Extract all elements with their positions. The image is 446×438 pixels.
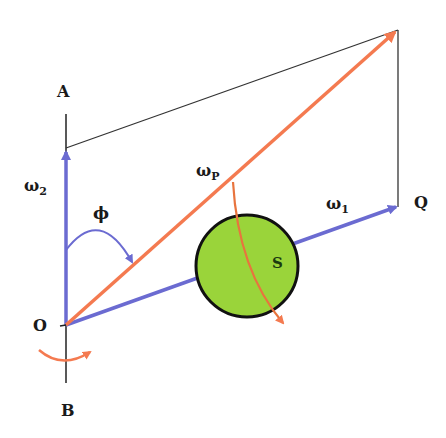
origin-tick: [60, 325, 66, 326]
omega-2-symbol: ω: [24, 176, 39, 195]
phi-angle-arc: [66, 230, 132, 262]
omega-1-symbol: ω: [326, 194, 341, 213]
axis-rotation-arrow: [39, 350, 90, 361]
label-b: B: [61, 403, 75, 419]
label-omega-1: ω1: [326, 196, 349, 215]
label-omega-p: ωP: [196, 163, 220, 182]
label-a: A: [57, 84, 69, 100]
omega-p-subscript: P: [211, 170, 219, 183]
diagram-canvas: [0, 0, 446, 438]
label-o: O: [33, 318, 47, 334]
label-q: Q: [414, 195, 428, 211]
label-s: S: [272, 256, 283, 271]
omega-1-subscript: 1: [341, 203, 349, 216]
omega-2-subscript: 2: [39, 185, 47, 198]
omega-p-symbol: ω: [196, 161, 211, 180]
label-omega-2: ω2: [24, 178, 47, 197]
parallelogram-top-line: [66, 30, 398, 148]
label-phi: ϕ: [93, 205, 109, 222]
